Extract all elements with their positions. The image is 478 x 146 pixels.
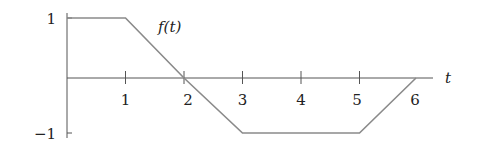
x-tick-label: 6 <box>410 91 420 109</box>
curve-label: f(t) <box>157 18 181 36</box>
x-axis-label: t <box>445 69 452 87</box>
x-tick-label: 1 <box>121 91 131 109</box>
x-tick-label: 5 <box>352 91 362 109</box>
y-tick-label: 1 <box>46 10 56 28</box>
chart: 1 2 3 4 5 6 1 −1 t f(t) <box>0 0 478 146</box>
x-tick-label: 3 <box>238 91 248 109</box>
y-tick-label: −1 <box>34 125 56 143</box>
x-tick-label: 4 <box>296 91 306 109</box>
f-curve <box>67 18 416 133</box>
x-tick-label: 2 <box>183 91 193 109</box>
